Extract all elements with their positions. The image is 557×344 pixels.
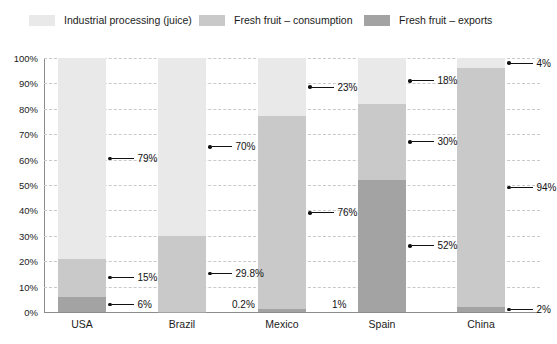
callout-value-label: 29.8% (236, 268, 264, 279)
chart-legend: Industrial processing (juice) Fresh frui… (0, 0, 554, 46)
callout-value-label: 70% (236, 141, 256, 152)
callout-leader-line (412, 141, 434, 142)
callout-leader-line (511, 309, 533, 310)
legend-swatch-fresh-fruit-consumption (199, 15, 225, 26)
bar-segment-usa-industrial (58, 58, 106, 259)
callout-leader-line (212, 273, 232, 274)
callout-value-label: 30% (438, 136, 458, 147)
callout-value-label: 15% (138, 272, 158, 283)
x-axis-label-mexico: Mexico (237, 318, 327, 330)
bar-segment-mexico-exports (258, 309, 306, 312)
legend-swatch-industrial-processing (29, 15, 55, 26)
y-axis-tick-30: 30% (19, 230, 38, 241)
y-axis-tick-0: 0% (24, 307, 38, 318)
callout-value-label: 76% (338, 207, 358, 218)
legend-item-fresh-fruit-exports: Fresh fruit – exports (364, 14, 492, 26)
legend-label-fresh-fruit-exports: Fresh fruit – exports (399, 14, 492, 26)
y-axis-tick-70: 70% (19, 129, 38, 140)
legend-label-industrial-processing: Industrial processing (juice) (64, 14, 192, 26)
callout-leader-line (412, 80, 434, 81)
legend-item-industrial-processing: Industrial processing (juice) (29, 14, 192, 26)
callout-value-label: 94% (537, 182, 557, 193)
bar-china (457, 58, 505, 312)
bar-segment-usa-exports (58, 297, 106, 312)
y-axis-tick-50: 50% (19, 180, 38, 191)
bar-segment-spain-exports (358, 180, 406, 312)
bar-segment-china-exports (457, 307, 505, 312)
callout-value-label: 1% (332, 298, 346, 309)
legend-item-fresh-fruit-consumption: Fresh fruit – consumption (199, 14, 352, 26)
bar-usa (58, 58, 106, 312)
bar-segment-china-consumption (457, 68, 505, 307)
bar-segment-brazil-exports (158, 312, 206, 313)
x-axis-label-usa: USA (37, 318, 127, 330)
bar-segment-usa-consumption (58, 259, 106, 297)
bar-brazil (158, 58, 206, 312)
callout-value-label: 23% (338, 81, 358, 92)
y-axis-tick-60: 60% (19, 154, 38, 165)
bar-segment-brazil-consumption (158, 236, 206, 312)
y-axis-tick-80: 80% (19, 103, 38, 114)
y-axis-tick-40: 40% (19, 205, 38, 216)
callout-leader-line (312, 87, 334, 88)
legend-label-fresh-fruit-consumption: Fresh fruit – consumption (234, 14, 352, 26)
callout-value-label: 79% (138, 152, 158, 163)
callout-leader-line (112, 158, 134, 159)
callout-value-label: 18% (438, 75, 458, 86)
bar-segment-mexico-consumption (258, 116, 306, 309)
gridline-0 (44, 312, 540, 313)
callout-value-label: 2% (537, 303, 551, 314)
x-axis-label-spain: Spain (337, 318, 427, 330)
bar-segment-brazil-industrial (158, 58, 206, 236)
callout-leader-line (511, 63, 533, 64)
bar-segment-mexico-industrial (258, 58, 306, 116)
callout-leader-line (511, 187, 533, 188)
x-axis-label-china: China (436, 318, 526, 330)
x-axis-label-brazil: Brazil (137, 318, 227, 330)
legend-swatch-fresh-fruit-exports (364, 15, 390, 26)
callout-leader-line (112, 277, 134, 278)
bar-spain (358, 58, 406, 312)
callout-value-label: 4% (537, 57, 551, 68)
callout-value-label: 6% (138, 298, 152, 309)
callout-value-label: 52% (438, 240, 458, 251)
bar-segment-spain-industrial (358, 58, 406, 104)
bar-segment-spain-consumption (358, 104, 406, 180)
callout-leader-line (212, 146, 232, 147)
callout-leader-line (412, 245, 434, 246)
plot-area: 0%10%20%30%40%50%60%70%80%90%100% 79%15%… (44, 58, 540, 312)
y-axis-tick-90: 90% (19, 78, 38, 89)
callout-leader-line (112, 304, 134, 305)
callout-leader-line (312, 212, 334, 213)
bar-segment-china-industrial (457, 58, 505, 68)
bar-mexico (258, 58, 306, 312)
y-axis-tick-10: 10% (19, 281, 38, 292)
y-axis-tick-100: 100% (14, 53, 38, 64)
callout-value-label: 0.2% (232, 298, 255, 309)
y-axis-tick-20: 20% (19, 256, 38, 267)
